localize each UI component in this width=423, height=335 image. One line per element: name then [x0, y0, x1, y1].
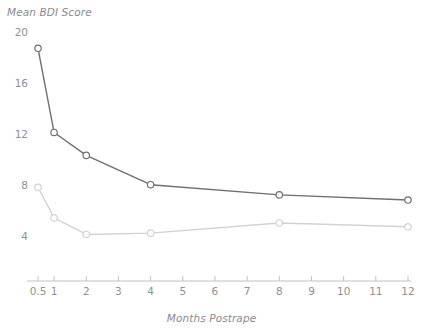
x-tick-label: 9 — [296, 285, 326, 297]
y-tick-label: 4 — [4, 230, 28, 242]
x-tick-label: 3 — [103, 285, 133, 297]
x-tick-label: 6 — [200, 285, 230, 297]
x-tick-label: 4 — [136, 285, 166, 297]
data-point-marker — [83, 231, 89, 237]
data-point-marker — [276, 220, 282, 226]
data-point-marker — [405, 224, 411, 230]
chart-container: Mean BDI Score 20161284 0.51234567891011… — [0, 0, 423, 335]
series-line-non-victim-controls — [38, 187, 408, 234]
y-tick-label: 12 — [4, 128, 28, 140]
y-tick-label: 8 — [4, 179, 28, 191]
x-axis — [27, 276, 411, 281]
data-series-group — [35, 45, 411, 238]
x-tick-label: 8 — [264, 285, 294, 297]
x-tick-label: 5 — [168, 285, 198, 297]
x-tick-label: 7 — [232, 285, 262, 297]
data-point-marker — [35, 45, 41, 51]
y-tick-label: 20 — [4, 26, 28, 38]
data-point-marker — [83, 152, 89, 158]
data-point-marker — [276, 192, 282, 198]
x-tick-label: 10 — [329, 285, 359, 297]
x-tick-label: 11 — [361, 285, 391, 297]
y-tick-label: 16 — [4, 77, 28, 89]
series-line-rape-victims — [38, 48, 408, 200]
data-point-marker — [405, 197, 411, 203]
data-point-marker — [51, 129, 57, 135]
data-point-marker — [147, 230, 153, 236]
x-axis-title: Months Postrape — [0, 312, 423, 324]
data-point-marker — [35, 184, 41, 190]
x-tick-label: 1 — [39, 285, 69, 297]
x-tick-label: 12 — [393, 285, 423, 297]
x-tick-label: 2 — [71, 285, 101, 297]
data-point-marker — [147, 182, 153, 188]
data-point-marker — [51, 215, 57, 221]
